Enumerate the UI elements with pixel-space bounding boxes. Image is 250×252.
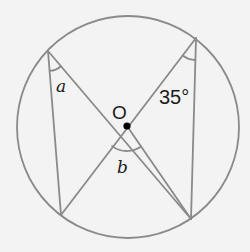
angle-label-a: a [56, 78, 66, 95]
center-dot [123, 122, 130, 129]
angle-label-b: b [117, 159, 128, 176]
radius-center-to-bottom-right [127, 126, 191, 219]
chord-top-left-to-bottom-right [48, 51, 191, 219]
circle-theorem-diagram: a 35° b O [0, 0, 250, 252]
angle-arc-35 [183, 56, 196, 61]
angle-arc-a [50, 66, 61, 71]
chord-top-right-to-bottom-right [191, 38, 196, 219]
diagram-canvas [0, 0, 250, 252]
angle-label-35: 35° [159, 87, 189, 107]
angle-arc-b [112, 146, 141, 151]
center-label-o: O [112, 103, 127, 122]
